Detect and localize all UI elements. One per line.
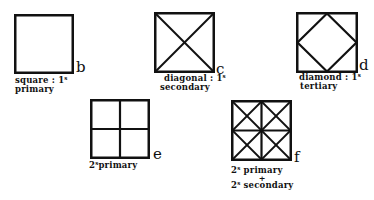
caption-d-line2: tertiary [299,81,338,91]
caption-d-sup: s [358,72,361,78]
diagonal-pattern-icon [154,12,215,73]
diamond-pattern-icon [296,12,358,73]
caption-d: diamond : 1s tertiary [299,73,361,91]
caption-f-sup1: s [237,165,240,171]
caption-c-line2: secondary [160,82,210,92]
caption-b-line2: primary [15,84,54,94]
caption-f-line2: secondary [244,180,294,190]
square-pattern-icon [14,14,74,74]
figure-letter-d: d [359,58,369,73]
grid-diagonal-pattern-icon [231,100,292,161]
figure-f-grid-diagonals [231,100,292,161]
caption-f: 2s primary + 2s secondary [231,166,293,190]
caption-c: diagonal : 1s secondary [160,74,226,92]
grid-pattern-icon [90,99,150,159]
caption-e: 2sprimary [89,161,137,170]
caption-b-sup: s [64,75,67,81]
figure-c-diagonal [154,12,215,73]
figure-letter-b: b [76,60,86,75]
caption-f-sup2: s [237,180,240,186]
figure-letter-e: e [153,147,162,162]
figure-e-grid [90,99,150,159]
caption-e-line: primary [98,160,137,170]
caption-c-sup: s [223,73,226,79]
figure-b-square [14,14,74,74]
caption-b: square : 1s primary [15,76,68,94]
figure-letter-f: f [294,150,300,165]
figure-d-diamond [296,12,358,73]
